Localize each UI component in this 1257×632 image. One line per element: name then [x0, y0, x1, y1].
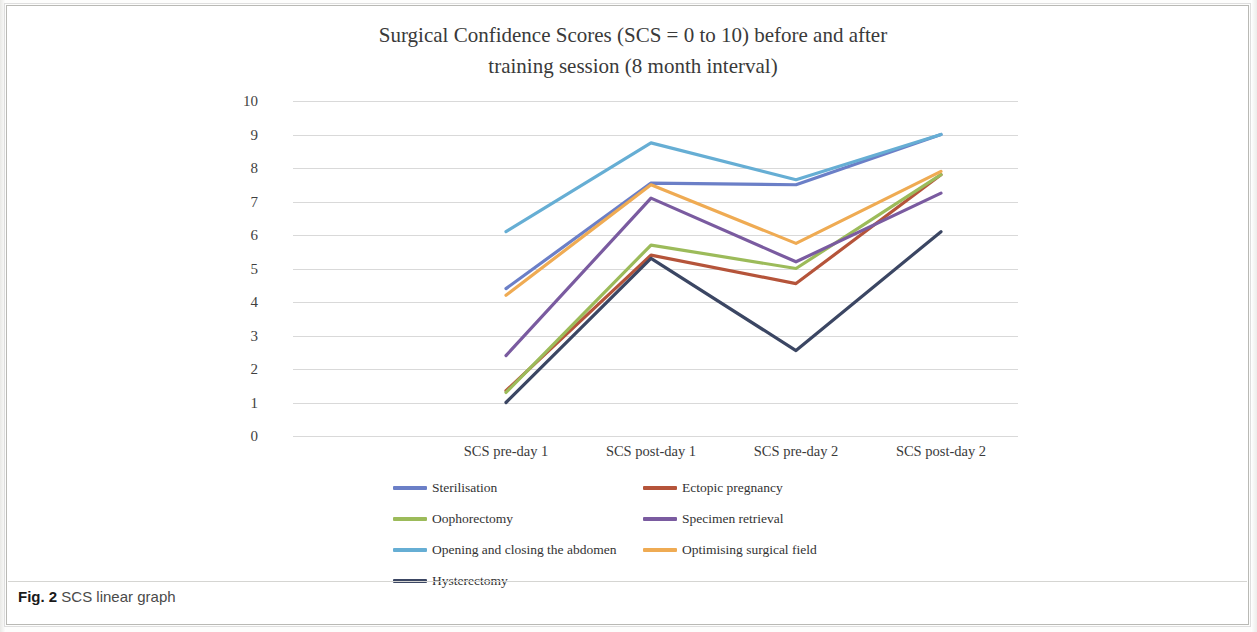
- y-axis-tick-label: 3: [251, 329, 259, 343]
- chart-title: Surgical Confidence Scores (SCS = 0 to 1…: [308, 20, 958, 82]
- legend-label: Optimising surgical field: [682, 542, 817, 558]
- x-axis-tick-label: SCS post-day 2: [896, 443, 986, 460]
- y-axis-tick-label: 7: [251, 195, 259, 209]
- y-axis-tick-label: 5: [251, 262, 259, 276]
- x-axis-tick-label: SCS pre-day 1: [464, 443, 549, 460]
- figure-container: Surgical Confidence Scores (SCS = 0 to 1…: [8, 6, 1247, 582]
- x-axis-tick-label: SCS post-day 1: [606, 443, 696, 460]
- caption-divider: [8, 581, 1247, 582]
- figure-caption: Fig. 2 SCS linear graph: [18, 588, 176, 605]
- x-axis-tick-label: SCS pre-day 2: [754, 443, 839, 460]
- legend-item[interactable]: Sterilisation: [393, 480, 497, 496]
- legend-label: Opening and closing the abdomen: [432, 542, 616, 558]
- chart-title-line-2: training session (8 month interval): [308, 51, 958, 82]
- figure-caption-label: Fig. 2: [18, 588, 57, 605]
- legend-item[interactable]: Oophorectomy: [393, 511, 513, 527]
- chart-legend: SterilisationEctopic pregnancyOophorecto…: [393, 480, 893, 576]
- legend-color-swatch: [393, 517, 427, 521]
- legend-item[interactable]: Ectopic pregnancy: [643, 480, 783, 496]
- legend-item[interactable]: Specimen retrieval: [643, 511, 784, 527]
- legend-item[interactable]: Optimising surgical field: [643, 542, 817, 558]
- series-lines: [293, 101, 1018, 436]
- legend-item[interactable]: Opening and closing the abdomen: [393, 542, 616, 558]
- y-axis-tick-label: 10: [243, 94, 258, 108]
- y-axis-tick-label: 9: [251, 128, 259, 142]
- legend-label: Ectopic pregnancy: [682, 480, 783, 496]
- y-axis-tick-label: 8: [251, 161, 259, 175]
- x-axis-tick-labels: SCS pre-day 1SCS post-day 1SCS pre-day 2…: [293, 443, 1018, 467]
- chart-title-line-1: Surgical Confidence Scores (SCS = 0 to 1…: [308, 20, 958, 51]
- gridline: [293, 436, 1018, 437]
- legend-label: Specimen retrieval: [682, 511, 784, 527]
- y-axis-tick-labels: 109876543210: [8, 101, 283, 436]
- legend-label: Oophorectomy: [432, 511, 513, 527]
- page-root: Surgical Confidence Scores (SCS = 0 to 1…: [0, 0, 1257, 632]
- page-spine-right: [1251, 0, 1257, 632]
- y-axis-tick-label: 6: [251, 228, 259, 242]
- legend-color-swatch: [643, 486, 677, 490]
- figure-caption-text: SCS linear graph: [61, 588, 175, 605]
- legend-color-swatch: [643, 548, 677, 552]
- legend-color-swatch: [393, 548, 427, 552]
- y-axis-tick-label: 1: [251, 396, 259, 410]
- legend-label: Sterilisation: [432, 480, 497, 496]
- legend-color-swatch: [393, 486, 427, 490]
- y-axis-tick-label: 4: [251, 295, 259, 309]
- legend-color-swatch: [643, 517, 677, 521]
- y-axis-tick-label: 0: [251, 429, 259, 443]
- y-axis-tick-label: 2: [251, 362, 259, 376]
- series-line: [506, 135, 941, 289]
